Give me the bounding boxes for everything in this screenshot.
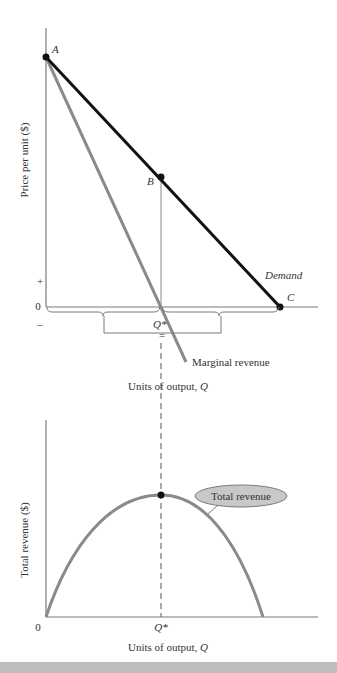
qstar-bottom-label: Q* xyxy=(154,621,168,633)
point-a-label: A xyxy=(51,43,59,55)
point-b-label: B xyxy=(147,175,154,187)
revenue-max-marker xyxy=(158,492,165,499)
demand-line xyxy=(46,57,280,307)
label-pointer xyxy=(208,505,218,514)
economics-diagram: Price per unit ($) + 0 – A B C Demand Q*… xyxy=(0,0,337,673)
top-chart: Price per unit ($) + 0 – A B C Demand Q*… xyxy=(18,28,318,392)
revenue-axis-label: Total revenue ($) xyxy=(18,502,31,578)
left-brace xyxy=(47,307,160,316)
point-c-label: C xyxy=(287,291,295,303)
demand-label: Demand xyxy=(264,269,303,281)
top-x-axis-label: Units of output, Q xyxy=(128,380,208,392)
total-revenue-label: Total revenue xyxy=(211,490,271,502)
marginal-revenue-label: Marginal revenue xyxy=(192,356,270,368)
bottom-x-axis-label: Units of output, Q xyxy=(128,641,208,653)
right-brace xyxy=(162,307,279,316)
marginal-revenue-line xyxy=(46,57,186,362)
bottom-chart: Total revenue ($) Total revenue 0 Q* Uni… xyxy=(18,420,318,653)
equals-sign: = xyxy=(159,329,165,341)
zero-label: 0 xyxy=(35,300,41,312)
plus-sign: + xyxy=(37,275,43,287)
bottom-gray-bar xyxy=(0,662,337,673)
minus-sign: – xyxy=(36,318,43,330)
point-b-marker xyxy=(158,174,165,181)
point-a-marker xyxy=(43,54,50,61)
price-axis-label: Price per unit ($) xyxy=(18,122,31,197)
total-revenue-curve xyxy=(46,495,263,617)
bottom-zero-label: 0 xyxy=(35,621,41,633)
